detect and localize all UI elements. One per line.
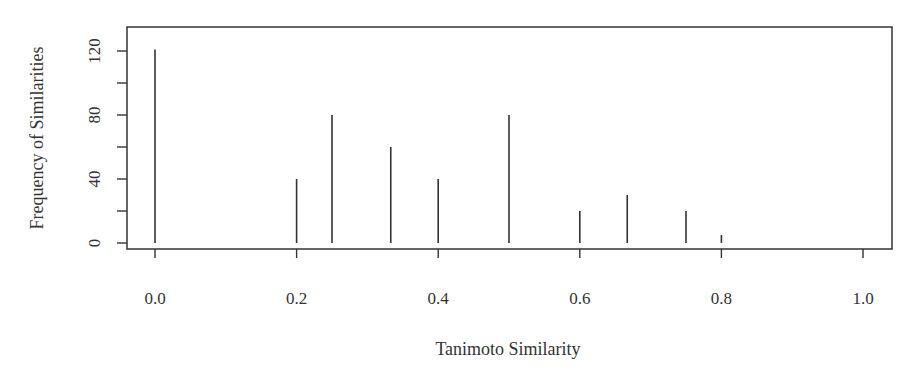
- y-tick: 40: [85, 171, 127, 188]
- x-tick: 0.8: [711, 249, 732, 308]
- y-tick-label: 40: [85, 171, 104, 188]
- x-tick: 0.4: [428, 249, 450, 308]
- x-tick-label: 1.0: [852, 289, 873, 308]
- y-tick-label: 120: [85, 38, 104, 64]
- y-tick: 120: [85, 38, 127, 64]
- y-tick-label: 0: [85, 239, 104, 248]
- x-tick-label: 0.4: [428, 289, 450, 308]
- chart: 0.00.20.40.60.81.0 04080120 Tanimoto Sim…: [0, 0, 911, 379]
- y-axis-label: Frequency of Similarities: [27, 47, 47, 230]
- x-tick: 0.6: [569, 249, 590, 308]
- x-tick-label: 0.2: [286, 289, 307, 308]
- x-tick-label: 0.6: [569, 289, 590, 308]
- x-axis-label: Tanimoto Similarity: [435, 339, 580, 359]
- y-tick-label: 80: [85, 107, 104, 124]
- y-axis: 04080120: [85, 38, 127, 247]
- x-tick: 0.2: [286, 249, 307, 308]
- x-tick: 1.0: [852, 249, 873, 308]
- y-tick: 80: [85, 107, 127, 124]
- data-spikes: [155, 49, 721, 243]
- y-tick: 0: [85, 239, 127, 248]
- x-tick-label: 0.0: [144, 289, 165, 308]
- x-axis: 0.00.20.40.60.81.0: [144, 249, 873, 308]
- x-tick: 0.0: [144, 249, 165, 308]
- x-tick-label: 0.8: [711, 289, 732, 308]
